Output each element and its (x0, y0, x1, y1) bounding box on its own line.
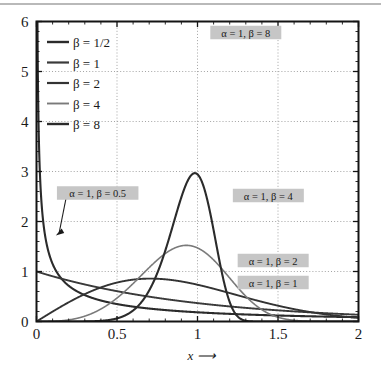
y-tick-label: 0 (21, 314, 29, 330)
annotation-label-0: α = 1, β = 8 (221, 28, 270, 39)
y-tick-label: 5 (21, 64, 29, 80)
legend-label-2: β = 2 (73, 76, 100, 91)
annotation-label-2: α = 1, β = 4 (244, 191, 294, 202)
legend-label-3: β = 4 (73, 97, 100, 112)
y-tick-label: 4 (21, 114, 29, 130)
annotation-label-1: α = 1, β = 0.5 (69, 188, 126, 199)
y-tick-label: 3 (21, 164, 29, 180)
legend-label-4: β = 8 (73, 117, 100, 132)
y-tick-label: 6 (21, 14, 29, 30)
annotation-label-3: α = 1, β = 2 (249, 256, 298, 267)
figure-container: 00.511.520123456x ⟶β = 1/2β = 1β = 2β = … (0, 0, 381, 372)
x-axis-label: x ⟶ (186, 348, 216, 363)
x-tick-label: 1 (194, 326, 202, 342)
x-tick-label: 0 (33, 326, 41, 342)
x-tick-label: 2 (355, 326, 363, 342)
annotation-label-4: α = 1, β = 1 (249, 278, 298, 289)
annotation-arrow-line-1 (59, 199, 66, 232)
weibull-pdf-chart: 00.511.520123456x ⟶β = 1/2β = 1β = 2β = … (0, 0, 381, 372)
y-tick-label: 2 (21, 214, 29, 230)
legend-label-1: β = 1 (73, 56, 100, 71)
x-tick-label: 0.5 (108, 326, 127, 342)
x-tick-label: 1.5 (269, 326, 288, 342)
y-tick-label: 1 (21, 264, 29, 280)
legend-label-0: β = 1/2 (73, 35, 110, 50)
